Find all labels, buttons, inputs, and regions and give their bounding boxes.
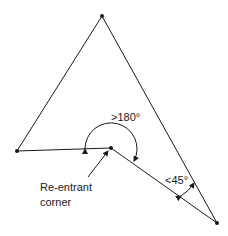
vertex-bottom-right — [215, 221, 219, 225]
obtuse-angle-arc — [85, 123, 137, 161]
edge-left-reentrant — [17, 148, 111, 151]
vertex-top — [100, 14, 104, 18]
obtuse-angle-label: >180° — [111, 111, 140, 123]
edge-top-left — [17, 16, 102, 151]
diagram-canvas: >180° <45° Re-entrant corner — [0, 0, 228, 236]
reentrant-label-line2: corner — [40, 196, 72, 208]
vertex-left — [15, 149, 19, 153]
reentrant-label-line1: Re-entrant — [40, 181, 92, 193]
vertex-reentrant — [109, 146, 113, 150]
reentrant-pointer-arrow — [88, 151, 108, 177]
acute-angle-label: <45° — [165, 174, 188, 186]
edge-reentrant-bottomright — [111, 148, 217, 223]
